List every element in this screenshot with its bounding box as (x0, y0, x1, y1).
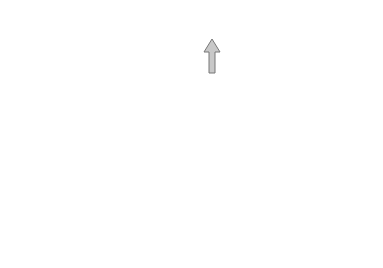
up-arrow-icon (203, 38, 221, 74)
